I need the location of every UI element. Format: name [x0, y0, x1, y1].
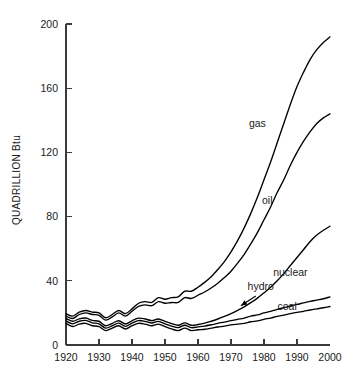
series-label-gas: gas	[249, 117, 266, 129]
series-curve-oil	[66, 114, 330, 320]
x-tick-label: 1930	[87, 351, 111, 363]
x-tick-label: 2000	[318, 351, 342, 363]
chart-figure: QUADRILLION Btu 04080120160200 192019301…	[0, 0, 356, 386]
x-tick-label: 1940	[120, 351, 144, 363]
x-tick-label: 1950	[153, 351, 177, 363]
x-tick-label: 1980	[252, 351, 276, 363]
series-inline-labels: coalhydronuclearoilgas	[248, 117, 309, 312]
x-tick-label: 1970	[219, 351, 243, 363]
series-label-hydro: hydro	[248, 280, 274, 292]
series-curves	[66, 37, 330, 331]
series-label-oil: oil	[262, 194, 273, 206]
x-axis-ticks: 192019301940195019601970198019902000	[54, 339, 342, 363]
y-axis-ticks: 04080120160200	[40, 18, 72, 351]
y-tick-label: 200	[40, 18, 58, 30]
y-tick-label: 0	[52, 339, 58, 351]
y-axis-label: QUADRILLION Btu	[11, 135, 22, 225]
series-label-nuclear: nuclear	[273, 266, 308, 278]
y-tick-label: 160	[40, 82, 58, 94]
series-label-coal: coal	[277, 300, 296, 312]
x-tick-label: 1920	[54, 351, 78, 363]
y-tick-label: 80	[46, 210, 58, 222]
y-tick-label: 40	[46, 275, 58, 287]
y-axis-label-text: QUADRILLION Btu	[11, 135, 22, 225]
energy-consumption-line-chart: QUADRILLION Btu 04080120160200 192019301…	[0, 0, 356, 386]
x-tick-label: 1960	[186, 351, 210, 363]
x-tick-label: 1990	[285, 351, 309, 363]
y-tick-label: 120	[40, 146, 58, 158]
